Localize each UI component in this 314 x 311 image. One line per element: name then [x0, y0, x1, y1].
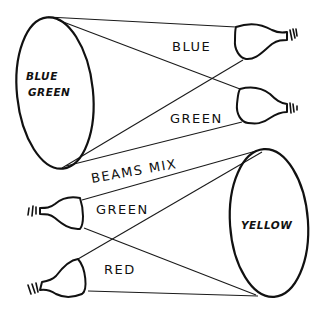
beam-blue-upper — [48, 17, 236, 27]
screen-label-green: GREEN — [28, 86, 70, 98]
spotlight-bulb-icon — [237, 88, 297, 124]
screen-blue-green: BLUE GREEN — [9, 13, 100, 172]
spotlight-bulb-icon — [235, 24, 297, 59]
screen-yellow: YELLOW — [225, 146, 313, 299]
beam-label-green-bottom: GREEN — [96, 202, 149, 217]
spotlight-bulb-icon — [28, 259, 85, 297]
beam-label-green: GREEN — [170, 111, 223, 126]
spotlight-bulb-icon — [28, 197, 83, 229]
screen-label-yellow: YELLOW — [241, 219, 292, 231]
beam-red-lower — [88, 291, 258, 296]
beam-label-red: RED — [104, 262, 136, 277]
color-mixing-diagram: BLUE GREEN BLUE GREEN BEAMS MIX — [0, 0, 314, 311]
screen-label-blue: BLUE — [26, 70, 58, 82]
top-mixing-group: BLUE GREEN BLUE GREEN — [9, 13, 297, 172]
beams-mix-label: BEAMS MIX — [90, 156, 178, 186]
beam-label-blue: BLUE — [172, 39, 211, 54]
